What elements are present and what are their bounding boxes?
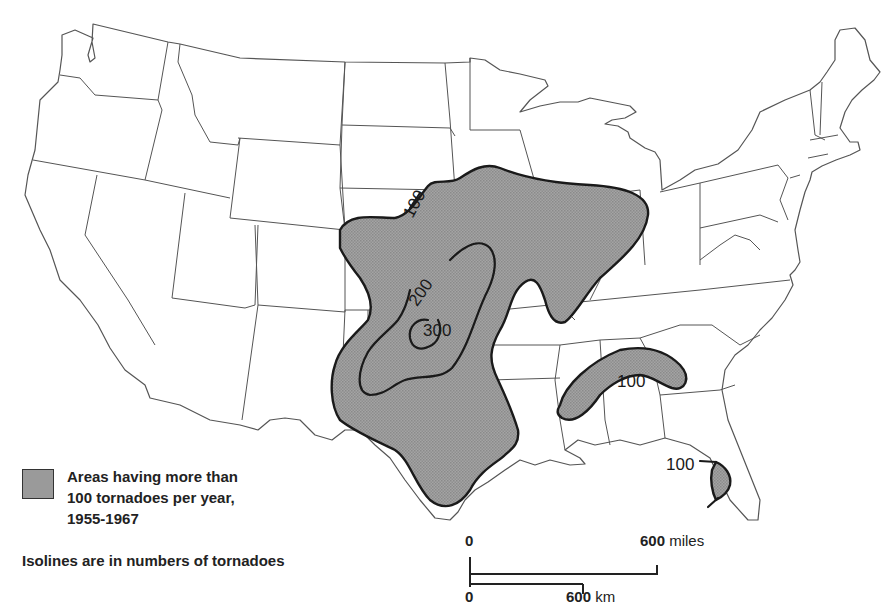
legend-line-1: Areas having more than (67, 466, 327, 487)
legend-swatch-shaded (22, 469, 54, 499)
scale-km-end: 600 km (566, 588, 615, 605)
legend-label: Areas having more than 100 tornadoes per… (67, 466, 327, 529)
scale-bar: 0 600 miles 0 600 km (460, 530, 740, 610)
scale-km-unit: km (595, 588, 615, 605)
scale-km-start: 0 (465, 588, 473, 605)
legend-line-3: 1955-1967 (67, 508, 327, 529)
isoline-note: Isolines are in numbers of tornadoes (22, 552, 285, 569)
isoline-label-100-florida: 100 (666, 455, 694, 474)
isoline-label-100-southeast: 100 (617, 372, 645, 391)
legend-line-2: 100 tornadoes per year, (67, 487, 327, 508)
scale-km-end-value: 600 (566, 588, 591, 605)
isoline-label-300: 300 (423, 321, 451, 340)
